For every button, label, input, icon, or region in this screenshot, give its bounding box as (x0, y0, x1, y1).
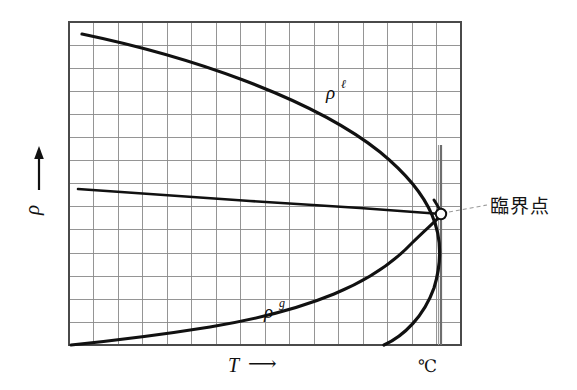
liquid-curve-label-base: ρ (325, 82, 335, 103)
x-axis-label-group: T ⟶ (228, 352, 277, 376)
gas-curve-label-superscript: g (279, 296, 285, 310)
critical-point-label: 臨界点 (490, 195, 550, 217)
critical-point-marker[interactable] (436, 209, 446, 219)
coexistence-curve-figure: ρ ℓ ρ g 臨界点 T ⟶ ℃ ρ (0, 0, 577, 390)
x-axis-arrow-icon: ⟶ (248, 352, 277, 374)
liquid-curve-label-superscript: ℓ (341, 77, 346, 91)
x-axis-unit-label: ℃ (418, 357, 437, 376)
gas-curve-label-base: ρ (263, 301, 273, 322)
x-axis-label: T (228, 354, 241, 376)
y-axis-label: ρ (20, 205, 44, 216)
figure-root: ρ ℓ ρ g 臨界点 T ⟶ ℃ ρ (0, 0, 577, 390)
